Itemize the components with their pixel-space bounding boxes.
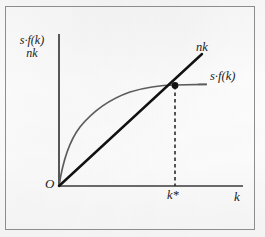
figure-page: s·f(k) nk nk s·f(k) O k* k <box>0 0 265 237</box>
line-nk <box>59 54 202 186</box>
curve-s-f-k <box>59 84 206 186</box>
x-axis-label: k <box>234 190 240 204</box>
curve-s-f-k-label: s·f(k) <box>210 70 235 83</box>
y-axis-label-line2: nk <box>8 47 56 60</box>
k-star-label: k* <box>167 189 179 202</box>
line-nk-label: nk <box>196 41 208 54</box>
steady-state-point <box>172 82 179 89</box>
y-axis-label: s·f(k) nk <box>8 34 56 59</box>
origin-label: O <box>45 177 54 191</box>
y-axis-label-line1: s·f(k) <box>8 34 56 47</box>
